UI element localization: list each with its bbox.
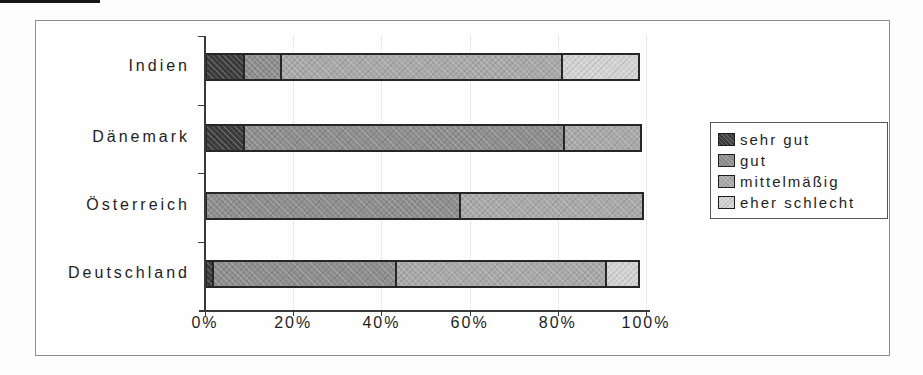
legend-item-sehr-gut: sehr gut [718, 129, 880, 150]
bar-segment-gut [212, 260, 397, 288]
x-axis-line [199, 310, 650, 312]
bar-segment-eher-schlecht [605, 260, 640, 288]
y-tick [198, 105, 204, 106]
bar-row-indien [205, 53, 646, 81]
y-tick [198, 173, 204, 174]
legend-label-eher-schlecht: eher schlecht [740, 194, 855, 211]
bar-segment-mittelm-ig [459, 192, 644, 220]
legend: sehr gutgutmittelmäßigeher schlecht [710, 122, 888, 219]
bar-row--sterreich [205, 192, 646, 220]
x-tick-label-80-: 80% [513, 314, 603, 332]
legend-label-mittelm-ig: mittelmäßig [740, 173, 840, 190]
legend-item-gut: gut [718, 150, 880, 171]
category-label-d-nemark: Dänemark [30, 128, 190, 146]
y-tick [198, 36, 204, 37]
x-tick-label-60-: 60% [425, 314, 515, 332]
legend-swatch-mittelm-ig [718, 175, 735, 188]
x-tick-label-0-: 0% [160, 314, 250, 332]
legend-swatch-gut [718, 154, 735, 167]
bar-row-deutschland [205, 260, 646, 288]
y-tick [198, 242, 204, 243]
bar-segment-mittelm-ig [563, 124, 642, 152]
legend-item-eher-schlecht: eher schlecht [718, 192, 880, 213]
bar-segment-gut [205, 192, 461, 220]
scanned-page: 0%20%40%60%80%100% IndienDänemarkÖsterre… [0, 0, 923, 375]
legend-label-gut: gut [740, 152, 767, 169]
legend-swatch-eher-schlecht [718, 196, 735, 209]
category-label-deutschland: Deutschland [30, 264, 190, 282]
legend-item-mittelm-ig: mittelmäßig [718, 171, 880, 192]
bar-segment-sehr-gut [205, 124, 245, 152]
gridline-100 [646, 36, 647, 310]
bar-segment-gut [243, 124, 565, 152]
legend-items: sehr gutgutmittelmäßigeher schlecht [718, 129, 880, 213]
y-axis-line [204, 36, 206, 310]
bar-segment-mittelm-ig [280, 53, 562, 81]
bar-segment-gut [243, 53, 283, 81]
bar-segment-eher-schlecht [561, 53, 640, 81]
bar-segment-mittelm-ig [395, 260, 607, 288]
bar-row-d-nemark [205, 124, 646, 152]
x-tick-label-100-: 100% [601, 314, 691, 332]
legend-label-sehr-gut: sehr gut [740, 131, 810, 148]
bar-segment-sehr-gut [205, 53, 245, 81]
category-label-indien: Indien [30, 57, 190, 75]
category-label--sterreich: Österreich [30, 196, 190, 214]
scan-artifact-line [0, 0, 100, 3]
legend-swatch-sehr-gut [718, 133, 735, 146]
x-tick-label-40-: 40% [336, 314, 426, 332]
x-tick-label-20-: 20% [248, 314, 338, 332]
